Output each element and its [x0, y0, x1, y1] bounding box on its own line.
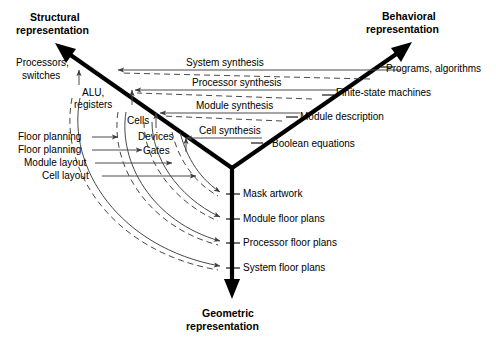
- behavioral-arrowhead-icon: [391, 42, 412, 62]
- geometric-arrowhead-icon: [224, 279, 240, 299]
- behavioral-node-fsm: Finite-state machines: [336, 87, 431, 98]
- y-chart-svg: Structural representation Behavioral rep…: [0, 0, 496, 343]
- behavioral-title-line2: representation: [366, 23, 439, 35]
- behavioral-axis-title: Behavioral representation: [366, 10, 439, 35]
- structural-title-line2: representation: [16, 24, 89, 36]
- behavioral-node-programs: Programs, algorithms: [386, 63, 481, 74]
- behavioral-node-module-desc: Module description: [300, 111, 384, 122]
- processor-synthesis-dashed: [137, 93, 312, 99]
- structural-node-switches: switches: [22, 70, 60, 81]
- geometric-title-line1: Geometric: [202, 307, 254, 319]
- behavioral-title-line1: Behavioral: [382, 10, 436, 22]
- y-chart-diagram: Structural representation Behavioral rep…: [0, 0, 496, 343]
- structural-node-cells: Cells: [127, 115, 149, 126]
- axis-geometric: [224, 168, 240, 299]
- label-processor-synthesis: Processor synthesis: [192, 77, 281, 88]
- label-floor-planning-1: Floor planning: [18, 131, 81, 142]
- structural-axis-title: Structural representation: [16, 11, 89, 36]
- geometric-nodes: Mask artwork Module floor plans Processo…: [226, 188, 337, 273]
- label-module-synthesis: Module synthesis: [196, 100, 273, 111]
- label-module-layout: Module layout: [24, 157, 86, 168]
- structural-node-devices: Devices: [138, 131, 174, 142]
- geometric-node-system-floor-plans: System floor plans: [243, 262, 325, 273]
- geometric-title-line2: representation: [186, 320, 259, 332]
- geometric-axis-title: Geometric representation: [186, 307, 259, 332]
- structural-title-line1: Structural: [30, 11, 80, 23]
- geometric-node-module-floor-plans: Module floor plans: [243, 213, 325, 224]
- behavioral-node-boolean: Boolean equations: [272, 138, 355, 149]
- structural-node-alu: ALU,: [82, 87, 104, 98]
- synthesis-labels: System synthesis Processor synthesis Mod…: [186, 57, 281, 136]
- label-cell-synthesis: Cell synthesis: [199, 125, 261, 136]
- module-synthesis-dashed: [162, 116, 282, 121]
- geometric-node-processor-floor-plans: Processor floor plans: [243, 237, 337, 248]
- label-system-synthesis: System synthesis: [186, 57, 264, 68]
- structural-node-gates: Gates: [143, 145, 170, 156]
- geometric-node-mask-artwork: Mask artwork: [243, 188, 303, 199]
- label-floor-planning-2: Floor planning: [18, 144, 81, 155]
- structural-node-processors: Processors,: [16, 57, 69, 68]
- label-cell-layout: Cell layout: [42, 170, 89, 181]
